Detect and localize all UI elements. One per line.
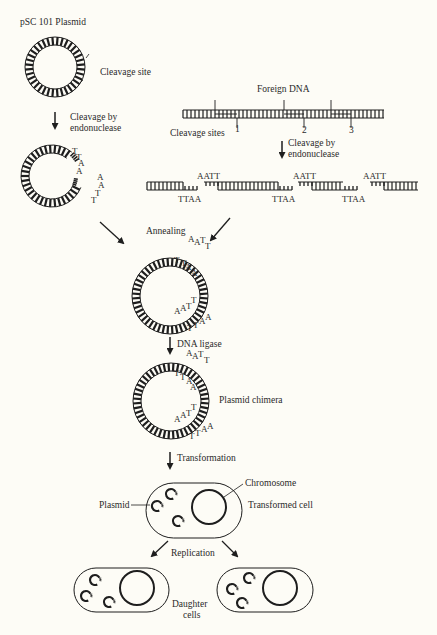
svg-text:A: A [207,421,214,431]
svg-text:T: T [174,255,180,265]
plasmid-intact [25,37,89,97]
replication-label: Replication [171,548,215,558]
svg-text:T: T [191,295,197,305]
svg-text:A: A [190,382,197,392]
transformed-cell [146,483,242,538]
svg-text:T: T [204,355,210,365]
annealing-label: Annealing [146,226,186,236]
daughter-cell-right [217,568,313,612]
title-label: pSC 101 Plasmid [20,17,86,27]
daughter-cell-left [74,568,169,612]
arrow-diagonal-icon [222,541,237,556]
svg-text:A: A [76,166,83,176]
cleavage-by-label-2: Cleavage by [288,138,335,148]
cleavage-sites-label: Cleavage sites [170,128,225,138]
arrow-diagonal-icon [211,218,230,240]
chromosome-circle [192,490,226,524]
dna-ligase-label: DNA ligase [177,339,222,349]
sticky-bottom-1: TTAA [178,194,202,204]
site-number-1: 1 [235,124,240,134]
cleavage-site-label: Cleavage site [100,67,151,77]
endonuclease-label: endonuclease [70,123,121,133]
dna-fragments [147,182,418,190]
sticky-top-3: AATT [363,171,386,181]
sticky-top-1: AATT [197,171,220,181]
daughter-cells-label-1: Daughter [172,599,208,609]
sticky-end-right: A A T T [91,172,105,205]
cleavage-by-label: Cleavage by [70,112,117,122]
svg-text:T: T [91,195,97,205]
sticky-bottom-2: TTAA [272,194,296,204]
sticky-bottom-3: TTAA [342,194,366,204]
sticky-end-left: T T A A [72,146,85,176]
plasmid-chimera-label: Plasmid chimera [219,395,283,405]
daughter-cells-label-2: cells [183,610,201,620]
arrow-diagonal-icon [100,222,123,243]
svg-text:A: A [205,312,212,322]
foreign-dna-label: Foreign DNA [257,84,310,94]
site-number-2: 2 [302,125,307,135]
svg-text:T: T [205,241,211,251]
arrow-diagonal-icon [152,541,168,556]
plasmid-label: Plasmid [99,500,130,510]
chromosome-label: Chromosome [245,478,296,488]
svg-text:T: T [191,402,197,412]
transformed-cell-label: Transformed cell [248,500,313,510]
transformation-label: Transformation [177,453,236,463]
endonuclease-label-2: endonuclease [288,149,339,159]
site-number-3: 3 [349,125,354,135]
foreign-dna-strand [183,100,384,128]
svg-text:A: A [191,268,198,278]
recombinant-dna-diagram: pSC 101 Plasmid Cleavage site Cleavage b… [0,0,437,635]
sticky-top-2: AATT [293,171,316,181]
